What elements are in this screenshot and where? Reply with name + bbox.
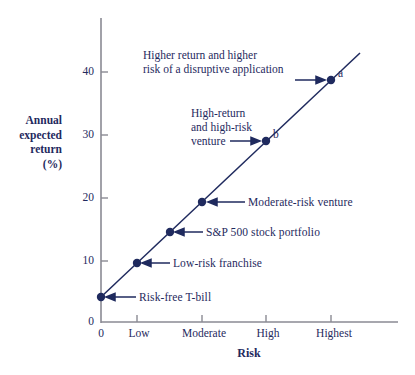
annotation-high-risk-venture-line-2: and high-risk [191,120,252,134]
point-label-b: b [273,128,279,140]
x-axis-title: Risk [237,346,260,361]
y-axis-title-line-1: Annual [0,113,62,128]
x-tick-label-moderate: Moderate [182,327,226,339]
marker-moderate-risk-venture [198,198,206,206]
marker-sp500-portfolio [166,228,174,236]
x-axis-ticks [137,315,331,322]
y-axis-title-line-3: return [0,142,62,157]
marker-high-risk-venture [262,137,270,145]
y-tick-label-40: 40 [64,65,94,77]
y-tick-label-10: 10 [64,254,94,266]
annotation-disruptive-application: Higher return and higher risk of a disru… [143,48,284,76]
y-axis-title-line-4: (%) [0,157,62,172]
y-axis-title-line-2: expected [0,128,62,143]
annotation-risk-free-tbill: Risk-free T-bill [139,291,211,305]
marker-low-risk-franchise [133,259,141,267]
annotation-disruptive-application-line-2: risk of a disruptive application [143,62,284,76]
annotation-moderate-risk-venture: Moderate-risk venture [248,196,353,210]
annotation-disruptive-application-line-1: Higher return and higher [143,48,284,62]
marker-risk-free-tbill [97,293,105,301]
y-tick-label-30: 30 [64,128,94,140]
annotation-high-risk-venture-line-3: venture [191,134,252,148]
x-tick-label-low: Low [128,327,149,339]
risk-return-chart: 40 30 20 10 0 Annual expected return (%)… [0,0,415,375]
annotation-low-risk-franchise: Low-risk franchise [173,257,262,271]
marker-disruptive-application [327,76,335,84]
point-label-a: a [338,67,343,79]
annotation-sp500-portfolio: S&P 500 stock portfolio [206,226,320,240]
annotation-high-risk-venture-line-1: High-return [191,106,252,120]
x-tick-label-highest: Highest [316,327,352,339]
y-tick-label-0: 0 [64,315,94,327]
y-axis-ticks [101,72,108,261]
y-tick-label-20: 20 [64,191,94,203]
x-tick-label-high: High [257,327,280,339]
y-axis-title: Annual expected return (%) [0,113,62,171]
x-tick-label-0: 0 [98,327,104,339]
annotation-high-risk-venture: High-return and high-risk venture [191,106,252,148]
